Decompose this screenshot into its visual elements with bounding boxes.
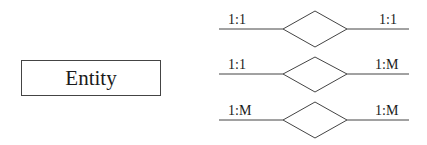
relationship-diamond (283, 57, 347, 92)
row-1-right-cardinality: 1:1 (379, 13, 397, 27)
relationship-diamond (283, 102, 347, 138)
relationship-diamond (283, 11, 347, 47)
relationship-diagram (0, 0, 427, 145)
row-2-left-cardinality: 1:1 (228, 58, 246, 72)
row-3-right-cardinality: 1:M (375, 104, 398, 118)
row-1-left-cardinality: 1:1 (228, 13, 246, 27)
row-3-left-cardinality: 1:M (228, 104, 251, 118)
row-2-right-cardinality: 1:M (375, 58, 398, 72)
